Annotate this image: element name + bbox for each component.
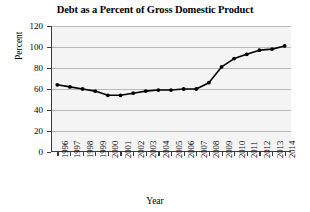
x-tick-mark	[285, 152, 286, 156]
y-tick-label: 80	[17, 64, 43, 73]
data-point-marker	[245, 52, 249, 56]
x-tick-mark	[120, 152, 121, 156]
x-tick-mark	[209, 152, 210, 156]
y-tick-mark	[47, 110, 51, 111]
y-tick-label: 20	[17, 127, 43, 136]
data-point-marker	[283, 44, 287, 48]
chart-container: Debt as a Percent of Gross Domestic Prod…	[0, 0, 310, 212]
data-point-marker	[232, 57, 236, 61]
x-tick-label: 2012	[263, 141, 272, 158]
data-point-marker	[258, 48, 262, 52]
x-axis-label: Year	[0, 196, 310, 206]
x-tick-mark	[108, 152, 109, 156]
x-tick-label: 2008	[212, 141, 221, 158]
x-tick-label: 2005	[175, 141, 184, 158]
x-tick-label: 2002	[137, 141, 146, 158]
y-tick-label: 100	[17, 43, 43, 52]
y-tick-mark	[47, 26, 51, 27]
x-tick-label: 2004	[162, 141, 171, 158]
x-tick-label: 2000	[111, 141, 120, 158]
x-tick-mark	[95, 152, 96, 156]
data-point-marker	[68, 85, 72, 89]
data-point-marker	[93, 89, 97, 93]
data-series-layer	[51, 26, 291, 152]
y-tick-mark	[47, 89, 51, 90]
x-tick-label: 1998	[86, 141, 95, 158]
x-tick-label: 2009	[225, 141, 234, 158]
y-tick-label: 120	[17, 22, 43, 31]
data-point-marker	[194, 87, 198, 91]
x-tick-mark	[146, 152, 147, 156]
data-point-marker	[182, 87, 186, 91]
x-tick-mark	[247, 152, 248, 156]
data-point-marker	[207, 81, 211, 85]
x-tick-label: 1996	[61, 141, 70, 158]
y-tick-mark	[47, 152, 51, 153]
data-point-marker	[169, 88, 173, 92]
series-line	[57, 46, 284, 95]
x-tick-mark	[171, 152, 172, 156]
x-tick-mark	[184, 152, 185, 156]
x-tick-mark	[222, 152, 223, 156]
data-point-marker	[144, 89, 148, 93]
y-tick-label: 0	[17, 148, 43, 157]
data-point-marker	[55, 83, 59, 87]
y-tick-mark	[47, 131, 51, 132]
x-tick-mark	[83, 152, 84, 156]
y-tick-label: 40	[17, 106, 43, 115]
x-tick-label: 2011	[250, 141, 259, 158]
x-tick-label: 2001	[124, 141, 133, 158]
data-point-marker	[156, 88, 160, 92]
data-point-marker	[270, 47, 274, 51]
chart-title: Debt as a Percent of Gross Domestic Prod…	[0, 4, 310, 15]
y-tick-label: 60	[17, 85, 43, 94]
x-tick-label: 2013	[276, 141, 285, 158]
data-point-marker	[119, 93, 123, 97]
x-tick-mark	[70, 152, 71, 156]
data-point-marker	[220, 65, 224, 69]
x-tick-label: 2010	[238, 141, 247, 158]
x-tick-mark	[57, 152, 58, 156]
data-point-marker	[81, 87, 85, 91]
x-tick-mark	[259, 152, 260, 156]
data-point-marker	[131, 91, 135, 95]
x-tick-mark	[133, 152, 134, 156]
x-tick-label: 2006	[187, 141, 196, 158]
x-tick-mark	[196, 152, 197, 156]
x-tick-label: 2003	[149, 141, 158, 158]
x-tick-mark	[158, 152, 159, 156]
x-tick-mark	[234, 152, 235, 156]
x-tick-mark	[272, 152, 273, 156]
y-tick-mark	[47, 47, 51, 48]
x-tick-label: 2007	[200, 141, 209, 158]
data-point-marker	[106, 93, 110, 97]
x-tick-label: 1999	[99, 141, 108, 158]
y-tick-mark	[47, 68, 51, 69]
x-tick-label: 2014	[288, 141, 297, 158]
x-tick-label: 1997	[73, 141, 82, 158]
